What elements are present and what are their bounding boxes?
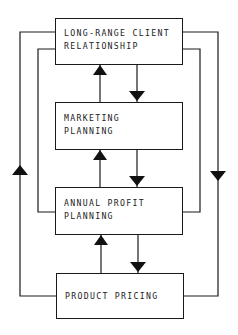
box-marketing-planning: MARKETING PLANNING: [55, 102, 183, 150]
arrow-up-icon: [94, 235, 108, 245]
box-label-line1: PRODUCT PRICING: [65, 290, 158, 303]
box-label-line1: ANNUAL PROFIT: [64, 197, 145, 210]
box-label-line1: LONG-RANGE CLIENT: [64, 27, 170, 40]
arrow-down-icon: [129, 176, 145, 186]
arrow-up-icon: [93, 150, 107, 160]
arrow-down-icon: [210, 171, 226, 181]
box-label-line2: RELATIONSHIP: [64, 40, 139, 53]
box-long-range-client-relationship: LONG-RANGE CLIENT RELATIONSHIP: [55, 18, 183, 65]
box-label-line1: MARKETING: [64, 112, 120, 125]
box-label-line2: PLANNING: [64, 125, 114, 138]
box-product-pricing: PRODUCT PRICING: [56, 273, 184, 319]
box-label-line2: PLANNING: [64, 210, 114, 223]
arrow-down-icon: [130, 262, 146, 272]
arrow-down-icon: [129, 91, 145, 101]
arrow-up-icon: [93, 65, 107, 75]
arrow-up-icon: [12, 165, 28, 175]
box-annual-profit-planning: ANNUAL PROFIT PLANNING: [55, 187, 183, 235]
